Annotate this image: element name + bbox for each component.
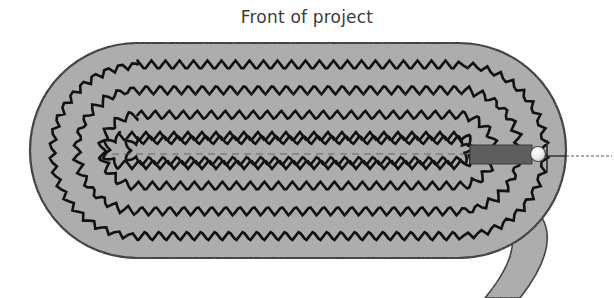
- bead-closure: [531, 147, 546, 162]
- strap-bar: [470, 145, 532, 164]
- diagram-page: Front of project: [0, 0, 614, 298]
- coiled-rope-diagram: [0, 0, 614, 298]
